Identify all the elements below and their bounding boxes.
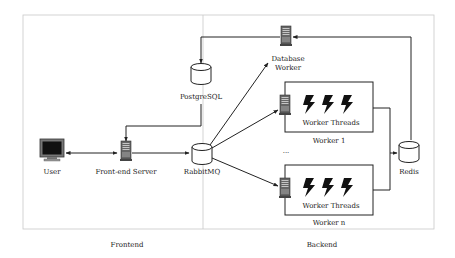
node-label-database-worker-line1: Database [271,55,304,64]
node-label-user: User [44,168,61,177]
node-label-postgresql: PostgreSQL [180,93,222,102]
region-label-backend: Backend [307,241,338,250]
edge-postgres-frontend [126,104,201,141]
database-cylinder-icon [191,64,211,85]
node-label-worker1: Worker 1 [313,137,346,146]
region-label-frontend: Frontend [111,241,144,250]
worker-ellipsis: ... [283,147,290,156]
server-icon [280,26,292,46]
server-icon [279,95,291,115]
node-label-database-worker-line2: Worker [275,64,301,73]
node-label-redis: Redis [399,168,419,177]
edge-dbworker-postgres [201,37,280,63]
server-icon [120,141,132,161]
edge-worker1-redis [373,108,397,153]
node-label-workern: Worker n [313,219,346,228]
database-cylinder-icon [399,142,419,163]
edge-workern-redis [373,153,390,190]
workern-threads-label: Worker Threads [302,202,359,211]
edge-rabbitmq-workern [212,158,278,186]
database-cylinder-icon [192,144,212,165]
node-label-rabbitmq: RabbitMQ [184,168,221,177]
server-icon [279,178,291,198]
architecture-diagram [0,0,455,258]
monitor-icon [40,139,64,161]
node-label-frontend-server: Front-end Server [95,168,156,177]
worker1-threads-label: Worker Threads [302,119,359,128]
